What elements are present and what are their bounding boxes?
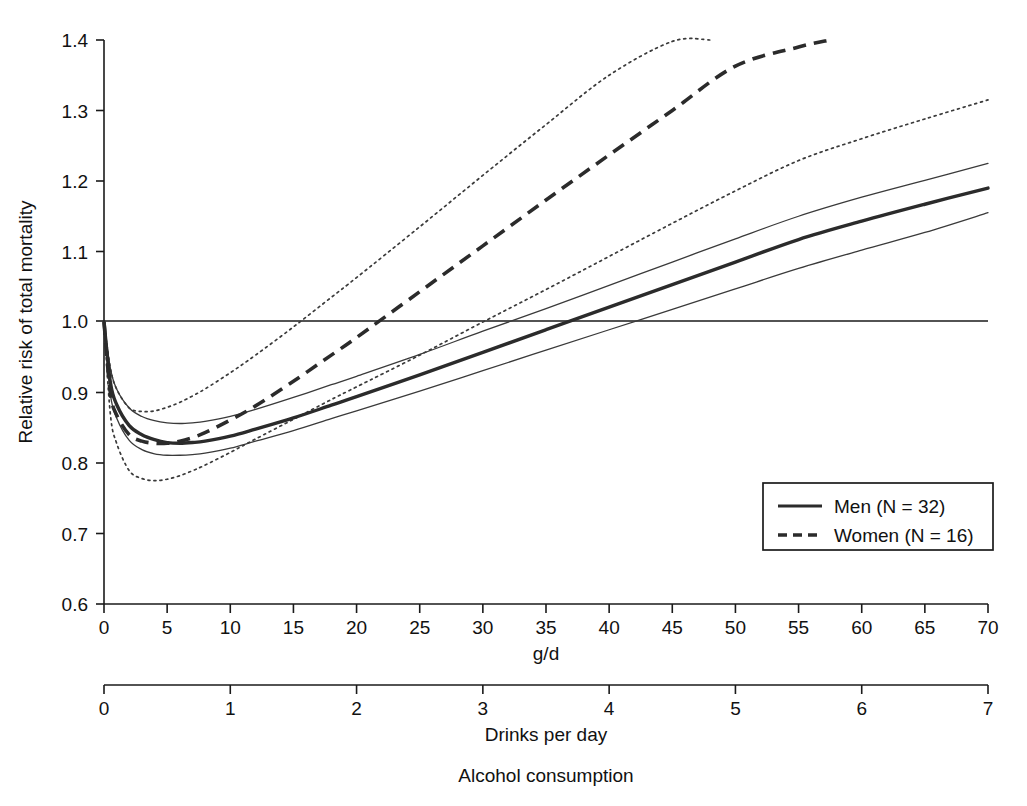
data-curves [104, 38, 988, 480]
x-tick-label-0: 0 [99, 617, 110, 638]
x-axis-primary-ticks: 0510152025303540455055606570 [99, 604, 999, 638]
primary-x-axis-title: g/d [533, 643, 559, 664]
y-tick-label-0.8: 0.8 [62, 453, 88, 474]
y-tick-label-0.7: 0.7 [62, 524, 88, 545]
y-tick-label-0.6: 0.6 [62, 594, 88, 615]
x-tick-label-20: 20 [346, 617, 367, 638]
x-tick-label-25: 25 [409, 617, 430, 638]
drinks-tick-label-0: 0 [99, 698, 110, 719]
y-tick-label-1.4: 1.4 [62, 30, 89, 51]
y-tick-label-1.1: 1.1 [62, 242, 88, 263]
secondary-x-axis-title: Drinks per day [485, 724, 608, 745]
y-tick-label-1.2: 1.2 [62, 171, 88, 192]
x-tick-label-70: 70 [977, 617, 998, 638]
x-tick-label-50: 50 [725, 617, 746, 638]
y-tick-label-1.3: 1.3 [62, 101, 88, 122]
x-tick-label-60: 60 [851, 617, 872, 638]
drinks-tick-label-6: 6 [856, 698, 867, 719]
drinks-tick-label-1: 1 [225, 698, 236, 719]
x-tick-label-45: 45 [662, 617, 683, 638]
relative-risk-mortality-chart: 1.4 1.3 1.2 1.1 1.0 0.9 0.8 0.7 0.6 Rela… [0, 0, 1027, 806]
x-axis-secondary-ticks: 01234567 [99, 685, 994, 719]
drinks-tick-label-3: 3 [478, 698, 489, 719]
x-tick-label-15: 15 [283, 617, 304, 638]
curve-women-lower-ci [104, 100, 988, 481]
curve-women-mean [104, 40, 830, 444]
x-tick-label-40: 40 [599, 617, 620, 638]
x-tick-label-65: 65 [914, 617, 935, 638]
drinks-tick-label-5: 5 [730, 698, 741, 719]
y-axis-title: Relative risk of total mortality [15, 200, 36, 443]
curve-men-lower-ci [104, 213, 988, 456]
y-axis-ticks: 1.4 1.3 1.2 1.1 1.0 0.9 0.8 0.7 0.6 [62, 30, 104, 615]
overall-x-axis-title: Alcohol consumption [458, 765, 633, 786]
chart-legend[interactable]: Men (N = 32) Women (N = 16) [763, 483, 993, 550]
figure-container: 1.4 1.3 1.2 1.1 1.0 0.9 0.8 0.7 0.6 Rela… [0, 0, 1027, 806]
drinks-tick-label-7: 7 [983, 698, 994, 719]
curve-women-upper-ci [104, 38, 710, 411]
x-tick-label-30: 30 [472, 617, 493, 638]
curve-men-mean [104, 188, 988, 443]
legend-label-men: Men (N = 32) [834, 496, 945, 517]
drinks-tick-label-2: 2 [351, 698, 362, 719]
curve-men-upper-ci [104, 163, 988, 423]
legend-label-women: Women (N = 16) [834, 525, 974, 546]
x-tick-label-35: 35 [535, 617, 556, 638]
drinks-tick-label-4: 4 [604, 698, 615, 719]
y-tick-label-1.0: 1.0 [62, 311, 88, 332]
x-tick-label-10: 10 [220, 617, 241, 638]
x-tick-label-55: 55 [788, 617, 809, 638]
x-tick-label-5: 5 [162, 617, 173, 638]
y-tick-label-0.9: 0.9 [62, 383, 88, 404]
